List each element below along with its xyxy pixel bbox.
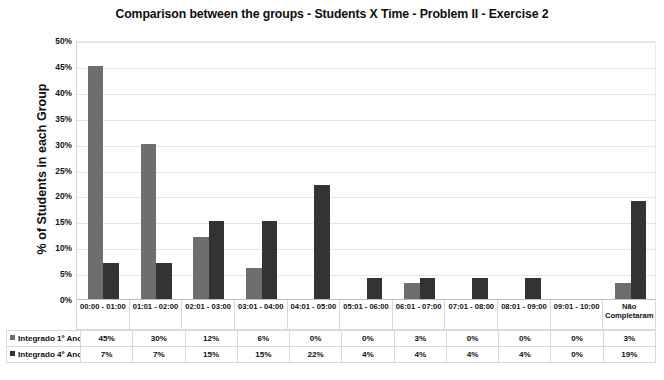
x-axis-label: 01:01 - 02:00	[130, 300, 183, 329]
series-name-label: Integrado 4º Ano	[18, 350, 81, 359]
series-legend-cell: Integrado 4º Ano	[7, 347, 81, 363]
table-cell-value: 0%	[499, 331, 551, 347]
bar-1	[141, 144, 157, 299]
plot-area	[76, 41, 656, 300]
x-axis-label: 08:01 - 09:00	[498, 300, 551, 329]
y-axis-tick-label: 0%	[22, 296, 72, 304]
bar-2	[262, 221, 278, 299]
y-axis-tick-label: 15%	[22, 218, 72, 226]
bar-group	[446, 42, 499, 299]
table-cell-value: 3%	[603, 331, 655, 347]
table-cell-value: 0%	[551, 347, 603, 363]
data-table: Integrado 1º Ano45%30%12%6%0%0%3%0%0%0%3…	[6, 330, 656, 363]
bar-group	[182, 42, 235, 299]
bar-1	[404, 283, 420, 299]
bar-2	[367, 278, 383, 299]
table-cell-value: 4%	[394, 347, 446, 363]
x-axis-label: 09:01 - 10:00	[551, 300, 604, 329]
y-axis-tick-label: 45%	[22, 63, 72, 71]
bar-group	[393, 42, 446, 299]
table-cell-value: 4%	[446, 347, 498, 363]
bar-2	[209, 221, 225, 299]
table-cell-value: 0%	[290, 331, 342, 347]
bar-2	[103, 263, 119, 299]
bar-group	[77, 42, 130, 299]
bar-2	[472, 278, 488, 299]
bar-group	[130, 42, 183, 299]
bar-2	[314, 185, 330, 299]
chart-title: Comparison between the groups - Students…	[0, 7, 664, 21]
table-cell-value: 45%	[81, 331, 133, 347]
table-cell-value: 6%	[237, 331, 289, 347]
series-legend-cell: Integrado 1º Ano	[7, 331, 81, 347]
chart-container: Comparison between the groups - Students…	[0, 0, 664, 380]
y-axis-tick-label: 5%	[22, 270, 72, 278]
bar-2	[420, 278, 436, 299]
bar-1	[615, 283, 631, 299]
y-axis-tick-label: 25%	[22, 167, 72, 175]
x-axis-label: 03:01 - 04:00	[235, 300, 288, 329]
table-cell-value: 19%	[603, 347, 655, 363]
table-row: Integrado 1º Ano45%30%12%6%0%0%3%0%0%0%3…	[7, 331, 656, 347]
table-cell-value: 4%	[499, 347, 551, 363]
table-cell-value: 22%	[290, 347, 342, 363]
x-axis-category-labels: 00:00 - 01:0001:01 - 02:0002:01 - 03:000…	[76, 300, 656, 330]
x-axis-label: 00:00 - 01:00	[77, 300, 130, 329]
legend-swatch-icon	[10, 351, 15, 356]
x-axis-label: 06:01 - 07:00	[393, 300, 446, 329]
table-row: Integrado 4º Ano7%7%15%15%22%4%4%4%4%0%1…	[7, 347, 656, 363]
bar-1	[88, 66, 104, 299]
x-axis-label: Não Completaram	[603, 300, 656, 329]
bar-group	[341, 42, 394, 299]
table-cell-value: 7%	[133, 347, 185, 363]
bar-group	[288, 42, 341, 299]
bar-2	[525, 278, 541, 299]
bar-2	[156, 263, 172, 299]
table-cell-value: 0%	[342, 331, 394, 347]
y-axis-tick-label: 35%	[22, 115, 72, 123]
table-cell-value: 3%	[394, 331, 446, 347]
bar-1	[246, 268, 262, 299]
bar-group	[499, 42, 552, 299]
legend-swatch-icon	[10, 335, 15, 340]
bar-group	[235, 42, 288, 299]
y-axis-tick-label: 10%	[22, 244, 72, 252]
y-axis-tick-label: 50%	[22, 37, 72, 45]
table-cell-value: 15%	[185, 347, 237, 363]
table-cell-value: 30%	[133, 331, 185, 347]
x-axis-label: 07:01 - 08:00	[445, 300, 498, 329]
table-cell-value: 0%	[551, 331, 603, 347]
x-axis-label: 05:01 - 06:00	[340, 300, 393, 329]
y-axis-tick-label: 30%	[22, 141, 72, 149]
bar-2	[631, 201, 647, 299]
table-cell-value: 7%	[81, 347, 133, 363]
table-cell-value: 15%	[237, 347, 289, 363]
bar-1	[193, 237, 209, 299]
table-cell-value: 4%	[342, 347, 394, 363]
bar-group	[552, 42, 605, 299]
table-cell-value: 0%	[446, 331, 498, 347]
y-axis-tick-label: 20%	[22, 192, 72, 200]
x-axis-label: 02:01 - 03:00	[182, 300, 235, 329]
series-name-label: Integrado 1º Ano	[18, 334, 81, 343]
bar-group	[604, 42, 657, 299]
x-axis-label: 04:01 - 05:00	[288, 300, 341, 329]
y-axis-tick-label: 40%	[22, 89, 72, 97]
table-cell-value: 12%	[185, 331, 237, 347]
